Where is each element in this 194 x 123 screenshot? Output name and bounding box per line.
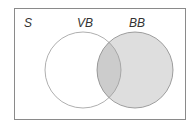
set-vb-label: VB: [77, 16, 93, 30]
venn-diagram: S VB BB: [0, 0, 194, 123]
set-bb-label: BB: [129, 16, 145, 30]
universe-label: S: [24, 16, 32, 30]
